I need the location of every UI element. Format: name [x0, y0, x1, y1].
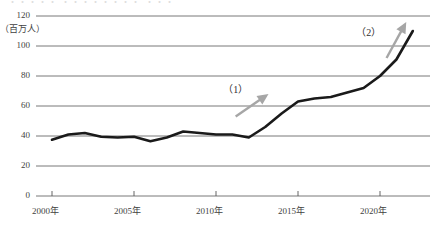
x-axis-tick-label: 2005年: [114, 204, 141, 217]
annotation-label: （1）: [223, 81, 248, 96]
y-axis-tick-label: 100: [2, 40, 30, 50]
annotation-arrow-head: [256, 94, 268, 105]
x-axis-tick-label: 2010年: [196, 204, 223, 217]
y-axis-tick-label: 120: [2, 10, 30, 20]
y-axis-tick-label: 0: [2, 190, 30, 200]
y-axis-tick-label: 60: [2, 100, 30, 110]
y-axis-tick-label: 80: [2, 70, 30, 80]
y-axis-tick-label: 20: [2, 160, 30, 170]
x-axis-tick-label: 2015年: [278, 204, 305, 217]
x-axis-tick-label: 2000年: [32, 204, 59, 217]
x-axis-tick-label: 2020年: [360, 204, 387, 217]
gridlines-group: [36, 16, 430, 196]
y-axis-unit-label: （百万人）: [0, 22, 45, 35]
y-axis-tick-label: 40: [2, 130, 30, 140]
x-axis-ticks-group: [52, 191, 380, 196]
line-chart-figure: ・・・・・ ・・・・・・・・ ・・・ （百万人） 120100806040200…: [0, 0, 438, 236]
annotation-label: （2）: [356, 24, 381, 39]
annotation-arrow-shaft: [236, 99, 261, 116]
